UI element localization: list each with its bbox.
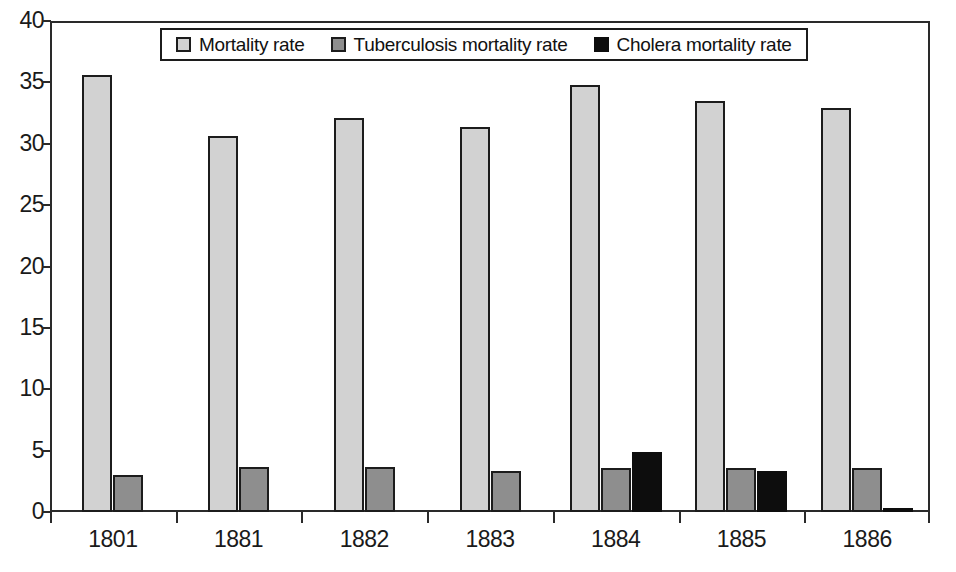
bar [601, 468, 631, 512]
bar [365, 467, 395, 512]
legend-label: Cholera mortality rate [617, 35, 792, 55]
legend-entry[interactable]: Tuberculosis mortality rate [331, 35, 568, 55]
bar-group [695, 21, 787, 512]
x-axis-tick-label: 1801 [88, 526, 137, 552]
bar [632, 452, 662, 512]
bar [491, 471, 521, 512]
legend-swatch-icon [594, 37, 609, 52]
y-axis-tick-mark [42, 81, 51, 83]
bar-group [82, 21, 143, 512]
legend-label: Tuberculosis mortality rate [354, 35, 568, 55]
y-axis-tick-mark [42, 511, 51, 513]
x-axis-ticks [50, 512, 930, 524]
bar [239, 467, 269, 512]
y-axis-tick-mark [42, 204, 51, 206]
x-axis-tick-mark [804, 512, 806, 523]
bar [208, 136, 238, 512]
x-axis-tick-mark [176, 512, 178, 523]
bar [113, 475, 143, 512]
x-axis-tick-label: 1883 [465, 526, 514, 552]
bar [460, 127, 490, 512]
x-axis-tick-mark [50, 512, 52, 523]
legend-entry[interactable]: Cholera mortality rate [594, 35, 792, 55]
bar [726, 468, 756, 512]
bar-group [334, 21, 395, 512]
y-axis-tick-mark [42, 388, 51, 390]
bar [695, 101, 725, 512]
y-axis-tick-label: 10 [0, 377, 44, 400]
bar-group [570, 21, 662, 512]
bar-group [460, 21, 521, 512]
y-axis: 0510152025303540 [0, 0, 44, 572]
y-axis-tick-label: 5 [0, 439, 44, 462]
y-axis-tick-label: 20 [0, 255, 44, 278]
bar-group [208, 21, 269, 512]
x-axis-tick-label: 1886 [843, 526, 892, 552]
y-axis-tick-label: 35 [0, 70, 44, 93]
y-axis-tick-mark [42, 20, 51, 22]
bar [570, 85, 600, 512]
x-axis-tick-mark [553, 512, 555, 523]
x-axis-tick-label: 1885 [717, 526, 766, 552]
y-axis-tick-label: 0 [0, 500, 44, 523]
legend-label: Mortality rate [199, 35, 305, 55]
y-axis-tick-label: 15 [0, 316, 44, 339]
legend-entry[interactable]: Mortality rate [176, 35, 305, 55]
x-axis-tick-label: 1882 [340, 526, 389, 552]
legend-swatch-icon [176, 37, 191, 52]
bar [757, 471, 787, 512]
bar-group [821, 21, 913, 512]
x-axis-tick-mark [679, 512, 681, 523]
bars-layer [50, 21, 930, 512]
x-axis-tick-label: 1884 [591, 526, 640, 552]
bar [334, 118, 364, 512]
x-axis: 1801188118821883188418851886 [50, 526, 930, 566]
y-axis-tick-label: 25 [0, 193, 44, 216]
bar-chart: 0510152025303540 18011881188218831884188… [0, 0, 956, 572]
bar [852, 468, 882, 512]
y-axis-tick-mark [42, 143, 51, 145]
y-axis-tick-mark [42, 327, 51, 329]
chart-legend: Mortality rateTuberculosis mortality rat… [160, 28, 808, 61]
x-axis-tick-mark [928, 512, 930, 523]
legend-swatch-icon [331, 37, 346, 52]
bar [82, 75, 112, 512]
y-axis-tick-mark [42, 450, 51, 452]
x-axis-tick-mark [301, 512, 303, 523]
x-axis-tick-mark [427, 512, 429, 523]
y-axis-tick-label: 30 [0, 132, 44, 155]
bar [821, 108, 851, 512]
x-axis-tick-label: 1881 [214, 526, 263, 552]
y-axis-tick-label: 40 [0, 9, 44, 32]
y-axis-tick-mark [42, 266, 51, 268]
